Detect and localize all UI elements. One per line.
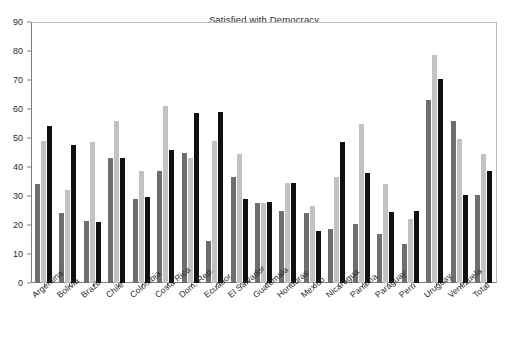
bar-group [255,22,272,283]
x-axis-labels: ArgentinaBoliviaBrazilChileColombiaCosta… [0,283,511,350]
y-tick-mark [27,225,31,226]
bar [96,222,101,283]
bar-group [182,22,199,283]
bar [432,55,437,283]
bar [231,177,236,283]
bar [218,112,223,283]
bar-group [231,22,248,283]
bar-series-layer [32,22,497,283]
bar [163,106,168,283]
bar [188,158,193,283]
y-tick-label: 40 [13,162,23,172]
bar-group [279,22,296,283]
bar-group [402,22,419,283]
bar [365,173,370,283]
bar [212,141,217,283]
bar [438,79,443,283]
bar [414,211,419,284]
bar [487,171,492,283]
bar [90,142,95,283]
bar [389,212,394,283]
bar-group [328,22,345,283]
bar [41,141,46,283]
x-tick-label: Chile [103,279,125,300]
bar-chart: Satisfied with Democracy 010203040506070… [0,0,511,350]
bar-group [157,22,174,283]
bar [120,158,125,283]
bar-group [475,22,492,283]
y-tick-mark [27,80,31,81]
bar [328,229,333,283]
bar-group [304,22,321,283]
bar [463,195,468,283]
x-tick-label: Total [471,280,492,300]
bar-group [84,22,101,283]
y-tick-mark [27,22,31,23]
bar [35,184,40,283]
bar-group [59,22,76,283]
y-tick-label: 30 [13,191,23,201]
bar [71,145,76,283]
bar-group [353,22,370,283]
y-tick-label: 50 [13,133,23,143]
bar [377,234,382,283]
y-tick-mark [27,167,31,168]
bar [194,113,199,283]
bar [340,142,345,283]
bar [291,183,296,283]
bar [65,190,70,283]
bar [182,153,187,284]
bar-group [377,22,394,283]
y-tick-mark [27,254,31,255]
bar-group [426,22,443,283]
bar-group [206,22,223,283]
y-tick-mark [27,196,31,197]
bar [334,177,339,283]
y-tick-mark [27,109,31,110]
bar [267,202,272,283]
bar-group [133,22,150,283]
bar [243,199,248,283]
y-tick-mark [27,51,31,52]
bar [157,171,162,283]
bar [84,221,89,283]
y-tick-label: 20 [13,220,23,230]
bar [139,171,144,283]
y-tick-label: 60 [13,104,23,114]
bar-group [108,22,125,283]
y-tick-mark [27,138,31,139]
bar [133,199,138,283]
bar [457,139,462,283]
bar [383,184,388,283]
bar [47,126,52,283]
x-tick-label: Peru [397,280,418,300]
bar-group [35,22,52,283]
bar [359,124,364,284]
bar [451,121,456,283]
y-tick-label: 10 [13,249,23,259]
bar [481,154,486,283]
y-tick-label: 90 [13,17,23,27]
bar [108,158,113,283]
bar [169,150,174,283]
bar [408,219,413,283]
y-tick-label: 80 [13,46,23,56]
bar [114,121,119,283]
y-tick-label: 70 [13,75,23,85]
bar [145,197,150,283]
bar-group [451,22,468,283]
bar [237,154,242,283]
bar [426,100,431,283]
bar [310,206,315,283]
